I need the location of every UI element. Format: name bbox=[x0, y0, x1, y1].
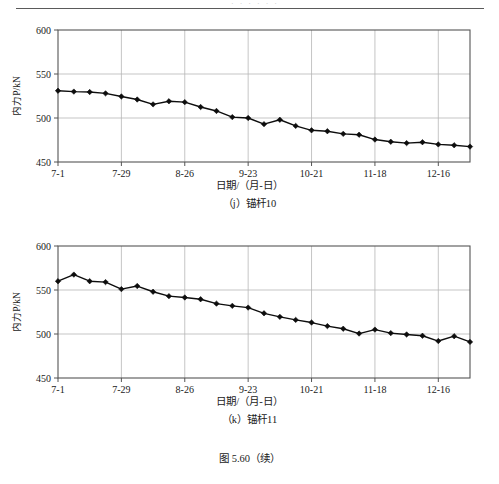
x-tick-label: 9-23 bbox=[239, 384, 257, 394]
y-tick-label: 500 bbox=[36, 113, 51, 124]
y-tick-label: 450 bbox=[36, 157, 51, 168]
data-point-marker bbox=[420, 140, 425, 145]
chart-k-xaxis-label: 日期/（月-日） bbox=[0, 395, 499, 409]
data-point-marker bbox=[230, 114, 235, 119]
data-point-marker bbox=[198, 104, 203, 109]
data-point-marker bbox=[372, 327, 377, 332]
y-tick-label: 550 bbox=[36, 285, 51, 296]
data-point-marker bbox=[87, 89, 92, 94]
data-point-marker bbox=[404, 332, 409, 337]
x-tick-label: 7-29 bbox=[112, 384, 130, 394]
data-point-marker bbox=[436, 142, 441, 147]
x-tick-label: 8-26 bbox=[176, 168, 194, 178]
x-tick-label: 9-23 bbox=[239, 168, 257, 178]
data-point-marker bbox=[436, 338, 441, 343]
y-tick-label: 450 bbox=[36, 373, 51, 384]
x-tick-label: 11-18 bbox=[363, 168, 386, 178]
chart-j-xaxis-label: 日期/（月-日） bbox=[0, 179, 499, 193]
data-point-marker bbox=[198, 297, 203, 302]
chart-k-svg: 4505005506007-17-298-269-2310-2111-1812-… bbox=[0, 234, 499, 394]
data-point-marker bbox=[261, 311, 266, 316]
x-tick-label: 8-26 bbox=[176, 384, 194, 394]
y-tick-label: 600 bbox=[36, 25, 51, 36]
chart-j-plot-area: 4505005506007-17-298-269-2310-2111-1812-… bbox=[0, 18, 499, 178]
data-point-marker bbox=[71, 272, 76, 277]
data-point-marker bbox=[341, 131, 346, 136]
data-point-marker bbox=[277, 314, 282, 319]
data-point-marker bbox=[103, 279, 108, 284]
data-point-marker bbox=[119, 286, 124, 291]
data-point-marker bbox=[325, 323, 330, 328]
data-point-marker bbox=[404, 140, 409, 145]
data-point-marker bbox=[309, 320, 314, 325]
data-point-marker bbox=[119, 94, 124, 99]
data-point-marker bbox=[356, 331, 361, 336]
data-point-marker bbox=[293, 317, 298, 322]
page-header-text: · · · · · · bbox=[160, 0, 350, 7]
data-point-marker bbox=[245, 305, 250, 310]
x-tick-label: 10-21 bbox=[300, 168, 323, 178]
chart-j-svg: 4505005506007-17-298-269-2310-2111-1812-… bbox=[0, 18, 499, 178]
data-point-marker bbox=[372, 137, 377, 142]
page-header-rule bbox=[16, 8, 484, 9]
y-tick-label: 500 bbox=[36, 329, 51, 340]
data-point-marker bbox=[451, 143, 456, 148]
chart-k-subfigure-caption: （k）锚杆11 bbox=[0, 412, 499, 427]
data-point-marker bbox=[87, 279, 92, 284]
data-point-marker bbox=[214, 301, 219, 306]
data-point-marker bbox=[55, 279, 60, 284]
x-tick-label: 7-29 bbox=[112, 168, 130, 178]
data-point-marker bbox=[135, 283, 140, 288]
data-point-marker bbox=[214, 108, 219, 113]
data-point-marker bbox=[388, 139, 393, 144]
y-tick-label: 550 bbox=[36, 69, 51, 80]
y-axis-title: 内力P/kN bbox=[11, 76, 22, 116]
data-point-marker bbox=[467, 144, 472, 149]
data-series-line bbox=[58, 275, 470, 342]
data-point-marker bbox=[55, 88, 60, 93]
chart-k-plot-area: 4505005506007-17-298-269-2310-2111-1812-… bbox=[0, 234, 499, 394]
data-point-marker bbox=[261, 121, 266, 126]
y-axis-title: 内力P/kN bbox=[11, 292, 22, 332]
data-point-marker bbox=[356, 132, 361, 137]
x-tick-label: 12-16 bbox=[427, 168, 450, 178]
data-point-marker bbox=[166, 99, 171, 104]
data-point-marker bbox=[135, 97, 140, 102]
data-point-marker bbox=[182, 295, 187, 300]
data-point-marker bbox=[166, 293, 171, 298]
chart-j-subfigure-caption: （j）锚杆10 bbox=[0, 196, 499, 211]
x-tick-label: 10-21 bbox=[300, 384, 323, 394]
data-point-marker bbox=[150, 102, 155, 107]
data-point-marker bbox=[293, 123, 298, 128]
data-point-marker bbox=[103, 91, 108, 96]
x-tick-label: 7-1 bbox=[51, 168, 64, 178]
data-point-marker bbox=[245, 115, 250, 120]
figure-number-caption: 图 5.60（续） bbox=[0, 450, 499, 465]
data-point-marker bbox=[230, 303, 235, 308]
data-point-marker bbox=[182, 99, 187, 104]
data-series-line bbox=[58, 91, 470, 147]
data-point-marker bbox=[325, 129, 330, 134]
data-point-marker bbox=[467, 339, 472, 344]
figure-anchor-rod-10: 4505005506007-17-298-269-2310-2111-1812-… bbox=[0, 18, 499, 228]
data-point-marker bbox=[71, 89, 76, 94]
data-point-marker bbox=[388, 330, 393, 335]
x-tick-label: 11-18 bbox=[363, 384, 386, 394]
figure-page: · · · · · · 4505005506007-17-298-269-231… bbox=[0, 0, 499, 484]
x-tick-label: 7-1 bbox=[51, 384, 64, 394]
y-tick-label: 600 bbox=[36, 241, 51, 252]
data-point-marker bbox=[341, 326, 346, 331]
x-tick-label: 12-16 bbox=[427, 384, 450, 394]
figure-anchor-rod-11: 4505005506007-17-298-269-2310-2111-1812-… bbox=[0, 234, 499, 444]
data-point-marker bbox=[309, 128, 314, 133]
